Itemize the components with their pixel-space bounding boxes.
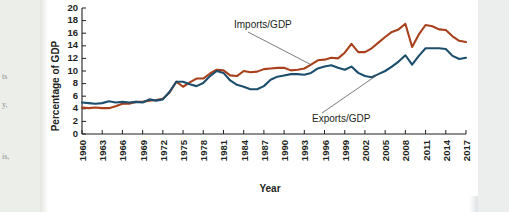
chart-panel: 02468101214161820 1960196319661969197219…: [48, 0, 478, 196]
x-tick-label: 1963: [97, 140, 108, 161]
x-axis: 1960196319661969197219751978198119841987…: [77, 130, 472, 161]
page-root: ts y, is, 02468101214161820 196019631966…: [0, 0, 509, 212]
y-tick-label: 12: [67, 52, 78, 63]
x-tick-label: 2002: [360, 140, 371, 161]
x-tick-label: 1969: [138, 140, 149, 161]
x-tick-label: 1978: [198, 140, 209, 161]
x-tick-label: 1975: [178, 139, 189, 161]
page-background-band: [478, 0, 509, 212]
x-tick-label: 2011: [421, 139, 432, 160]
y-tick-label: 4: [73, 102, 79, 113]
x-tick-label: 1966: [117, 140, 128, 161]
y-tick-label: 0: [73, 128, 78, 139]
margin-fade: [40, 0, 48, 212]
margin-text-fragment-1: ts: [2, 72, 7, 81]
x-tick-label: 2008: [400, 140, 411, 161]
margin-text-fragment-2: y,: [2, 100, 7, 109]
series-lines: [82, 24, 466, 108]
y-tick-label: 20: [67, 2, 78, 13]
annotation-label: Imports/GDP: [234, 19, 292, 30]
x-tick-label: 2014: [441, 139, 452, 161]
y-axis-title: Percentage of GDP: [50, 40, 61, 131]
x-tick-label: 1996: [320, 140, 331, 161]
series-line-exports: [82, 48, 466, 103]
y-tick-label: 18: [67, 14, 78, 25]
series-line-imports: [82, 24, 466, 108]
annotation-label: Exports/GDP: [312, 113, 371, 124]
x-tick-label: 1972: [158, 140, 169, 161]
x-tick-label: 1981: [218, 139, 229, 161]
x-tick-label: 1999: [340, 140, 351, 161]
y-tick-label: 10: [67, 65, 78, 76]
x-tick-label: 1993: [299, 140, 310, 161]
line-chart: 02468101214161820 1960196319661969197219…: [48, 0, 478, 196]
y-axis: 02468101214161820: [67, 2, 86, 139]
x-axis-title: Year: [259, 183, 280, 194]
y-tick-label: 2: [73, 115, 78, 126]
x-tick-label: 2017: [461, 140, 472, 161]
y-tick-label: 6: [73, 90, 78, 101]
x-tick-label: 1984: [239, 139, 250, 161]
y-tick-label: 16: [67, 27, 78, 38]
x-tick-label: 2005: [380, 139, 391, 161]
x-tick-label: 1990: [279, 140, 290, 161]
margin-text-fragment-3: is,: [2, 152, 9, 161]
x-tick-label: 1960: [77, 140, 88, 161]
y-tick-label: 14: [67, 39, 78, 50]
annotation-leader-line: [322, 74, 378, 113]
x-tick-label: 1987: [259, 140, 270, 161]
y-tick-label: 8: [73, 77, 78, 88]
annotation-leader-line: [248, 32, 311, 65]
